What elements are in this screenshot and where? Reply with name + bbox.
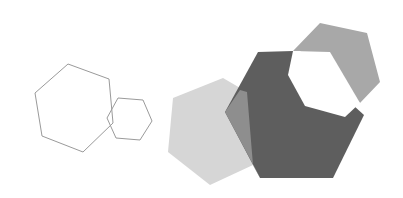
hexagon-diagram <box>0 0 403 198</box>
